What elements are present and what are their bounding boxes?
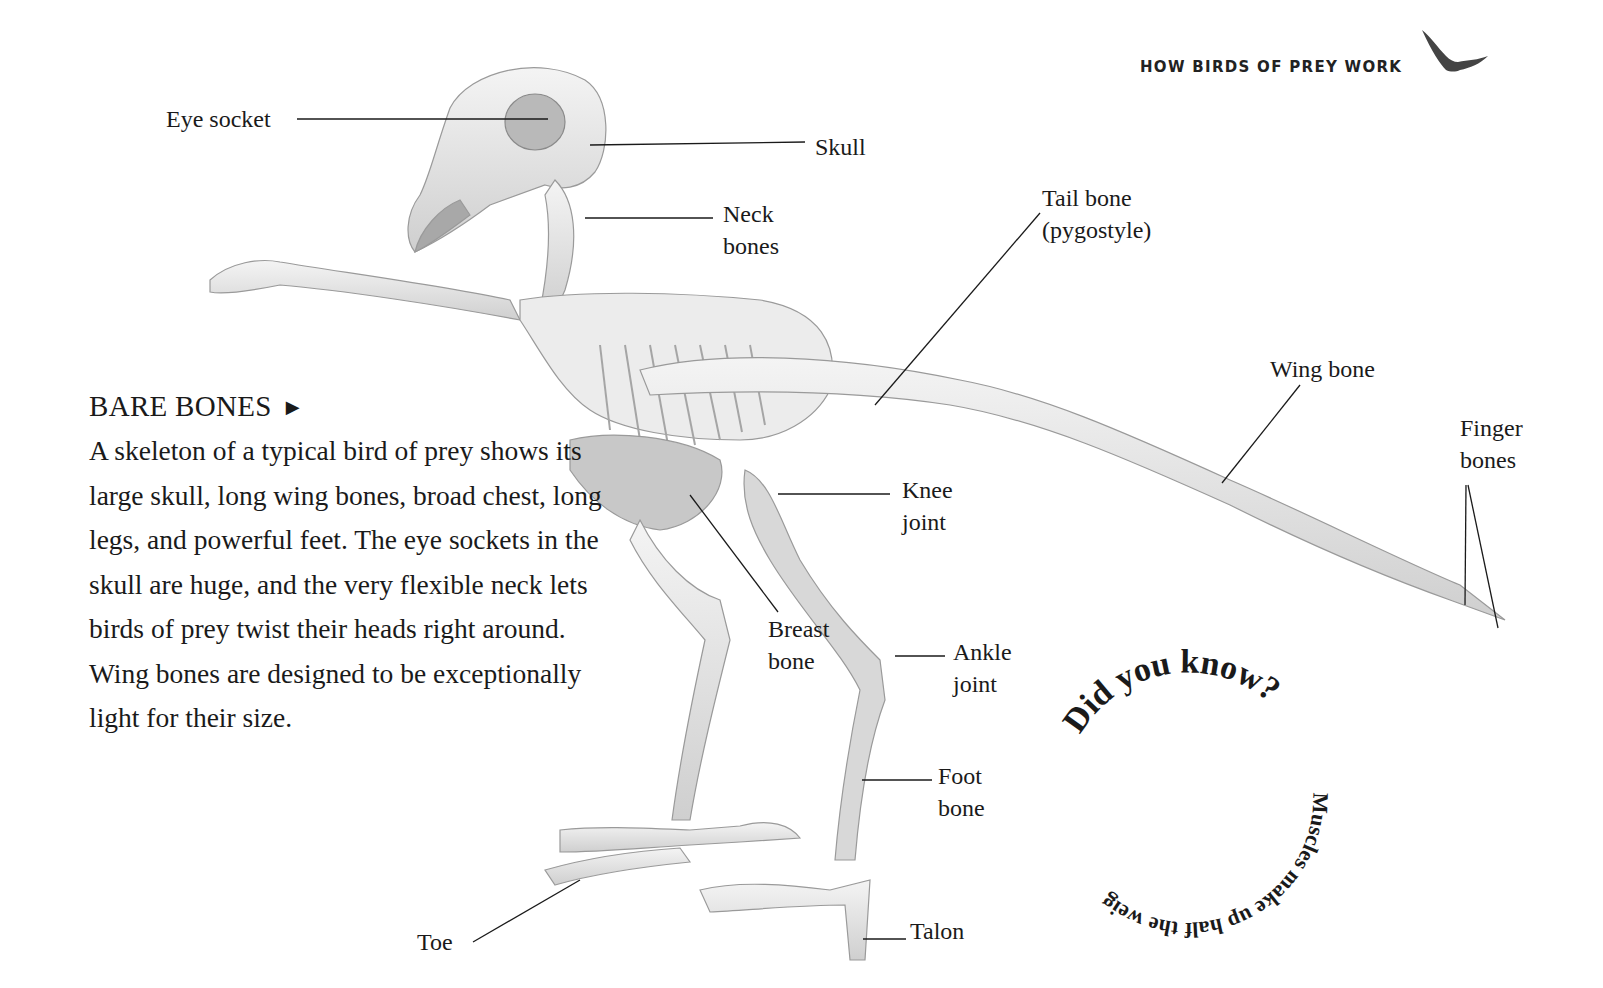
finger-bones-leader-1 [1465,485,1466,605]
tail-bone-leader [875,213,1040,405]
label-wing-bone: Wing bone [1270,353,1375,385]
label-toe: Toe [417,926,453,958]
label-knee-joint: Knee joint [902,474,953,538]
bare-bones-sidebar: BARE BONES▶ A skeleton of a typical bird… [89,388,629,741]
sidebar-heading: BARE BONES▶ [89,388,629,425]
toe-leader [473,880,580,942]
arrow-right-icon: ▶ [286,397,300,417]
skull-leader [590,142,805,145]
label-ankle-joint: Ankle joint [953,636,1012,700]
wing-bone-leader [1222,385,1300,483]
label-neck-bones: Neck bones [723,198,779,262]
book-page: HOW BIRDS OF PREY WORK Eye socket Skull … [0,0,1603,988]
label-foot-bone: Foot bone [938,760,985,824]
label-talon: Talon [910,915,964,947]
label-tail-bone: Tail bone (pygostyle) [1042,182,1151,246]
eagle-silhouette-icon [1420,26,1490,76]
label-finger-bones: Finger bones [1460,412,1523,476]
did-you-know-title: Did you know? [1055,642,1287,738]
label-breast-bone: Breast bone [768,613,829,677]
sidebar-body: A skeleton of a typical bird of prey sho… [89,429,629,741]
label-skull: Skull [815,131,866,163]
running-header: HOW BIRDS OF PREY WORK [1140,58,1402,76]
did-you-know-spiral: Did you know? Muscles make up half the w… [1050,640,1350,940]
label-eye-socket: Eye socket [166,103,271,135]
